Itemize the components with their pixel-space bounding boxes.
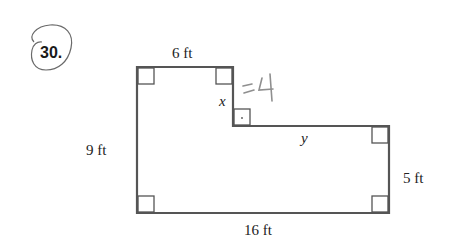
label-bottom: 16 ft	[244, 222, 273, 238]
right-angle-mark-top-left	[138, 68, 154, 84]
label-right: 5 ft	[403, 170, 424, 186]
label-top: 6 ft	[172, 45, 193, 61]
label-x: x	[218, 93, 226, 109]
dot-mark	[241, 117, 243, 119]
right-angle-mark-step-right	[372, 127, 388, 143]
right-angle-mark-bottom-right	[372, 196, 388, 212]
label-left: 9 ft	[86, 142, 107, 158]
right-angle-mark-inner-notch	[234, 109, 250, 125]
label-y: y	[299, 130, 308, 146]
handwritten-answer	[243, 74, 273, 101]
geometry-figure: 30. 6 ft 9 ft 16 ft 5 ft x y =4	[0, 0, 452, 249]
right-angle-mark-bottom-left	[138, 196, 154, 212]
problem-number: 30.	[32, 25, 72, 70]
problem-number-text: 30.	[40, 44, 62, 61]
right-angle-mark-top-notch	[216, 68, 232, 84]
l-shape-outline	[137, 67, 389, 213]
